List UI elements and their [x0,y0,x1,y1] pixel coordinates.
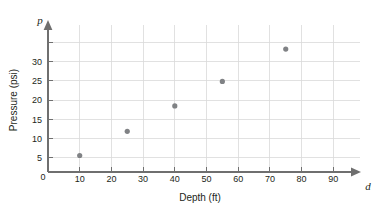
x-axis-title: Depth (ft) [179,192,221,203]
x-tick-label: 50 [201,174,211,184]
data-point [220,79,225,84]
grid-vertical [80,25,334,172]
chart-figure: 0 10 20 30 40 50 60 70 80 90 5 10 15 20 … [0,0,386,207]
y-tick-label: 10 [32,134,42,144]
x-tick-label: 80 [297,174,307,184]
y-tick-label: 25 [32,76,42,86]
x-axis-variable: d [365,180,371,192]
data-points [77,47,288,159]
x-tick-label: 60 [233,174,243,184]
y-axis-title: Pressure (psi) [8,69,19,131]
grid-horizontal [48,42,360,157]
y-axis-variable: p [36,14,43,26]
x-tick-label: 90 [328,174,338,184]
y-tick-label: 15 [32,115,42,125]
y-tick-labels: 5 10 15 20 25 30 [32,57,42,163]
x-tick-label: 10 [75,174,85,184]
data-point [283,47,288,52]
x-tick-label: 0 [40,172,45,182]
data-point [125,129,130,134]
x-tick-labels: 0 10 20 30 40 50 60 70 80 90 [40,172,338,184]
x-tick-label: 70 [265,174,275,184]
data-point [77,153,82,158]
scatter-plot: 0 10 20 30 40 50 60 70 80 90 5 10 15 20 … [0,0,386,207]
x-tick-label: 20 [106,174,116,184]
x-tick-label: 40 [170,174,180,184]
y-tick-label: 30 [32,57,42,67]
y-tick-label: 5 [37,153,42,163]
x-tick-label: 30 [138,174,148,184]
y-tick-label: 20 [32,95,42,105]
data-point [172,103,177,108]
